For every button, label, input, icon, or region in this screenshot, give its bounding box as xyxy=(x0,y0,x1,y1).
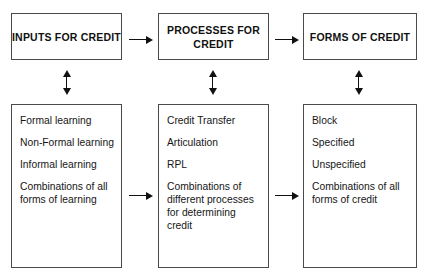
list-item: Non-Formal learning xyxy=(20,136,121,149)
header-box-forms: FORMS OF CREDIT xyxy=(303,13,417,60)
header-label-forms: FORMS OF CREDIT xyxy=(310,30,410,44)
header-box-inputs: INPUTS FOR CREDIT xyxy=(11,13,122,60)
list-item: Combinations of all forms of learning xyxy=(20,180,121,206)
list-item: Block xyxy=(312,114,416,127)
arrow-right-list-inputs-to-processes xyxy=(129,191,153,200)
list-item: Combinations of all forms of credit xyxy=(312,180,416,206)
arrow-right-header-inputs-to-processes xyxy=(129,35,153,44)
list-item: Articulation xyxy=(167,136,268,149)
arrow-up-down-processes xyxy=(208,70,217,95)
list-box-inputs: Formal learning Non-Formal learning Info… xyxy=(11,104,122,268)
list-item: Combinations of different processes for … xyxy=(167,180,268,232)
list-box-processes: Credit Transfer Articulation RPL Combina… xyxy=(158,104,269,268)
list-box-forms: Block Specified Unspecified Combinations… xyxy=(303,104,417,268)
list-item: Unspecified xyxy=(312,158,416,171)
list-item: Credit Transfer xyxy=(167,114,268,127)
list-item: Informal learning xyxy=(20,158,121,171)
header-box-processes: PROCESSES FOR CREDIT xyxy=(158,13,269,60)
list-item: Specified xyxy=(312,136,416,149)
list-item: RPL xyxy=(167,158,268,171)
list-item: Formal learning xyxy=(20,114,121,127)
arrow-right-list-processes-to-forms xyxy=(275,191,299,200)
arrow-up-down-inputs xyxy=(62,70,71,95)
arrow-up-down-forms xyxy=(354,70,363,95)
header-label-inputs: INPUTS FOR CREDIT xyxy=(12,30,121,44)
arrow-right-header-processes-to-forms xyxy=(275,35,299,44)
diagram-canvas: INPUTS FOR CREDIT PROCESSES FOR CREDIT F… xyxy=(0,0,428,278)
header-label-processes: PROCESSES FOR CREDIT xyxy=(159,23,268,51)
